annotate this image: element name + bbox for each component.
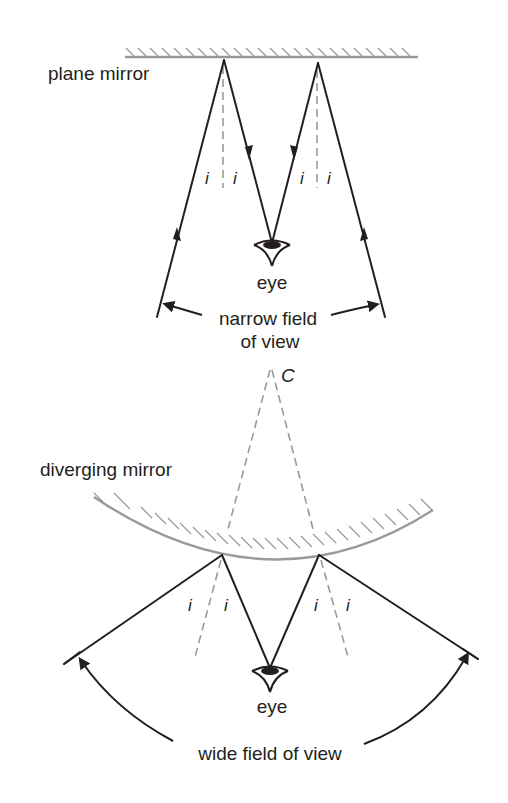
plane-mirror-label: plane mirror xyxy=(48,63,150,84)
angle-label-i: i xyxy=(205,169,210,188)
angle-label-i: i xyxy=(346,596,351,615)
angle-label-i: i xyxy=(300,169,305,188)
wide-field-label: wide field of view xyxy=(197,743,342,764)
field-edge-tick-left xyxy=(64,652,80,664)
mirror-field-of-view-diagram: plane mirror i i i i eye narrow field of… xyxy=(0,0,508,803)
reflected-ray-right-outer xyxy=(318,63,385,317)
narrow-field-label-line2: of view xyxy=(240,331,299,352)
diverging-mirror-label: diverging mirror xyxy=(40,459,173,480)
eye-label: eye xyxy=(257,272,288,293)
radius-line-right xyxy=(272,370,314,533)
plane-mirror-diagram: plane mirror i i i i eye narrow field of… xyxy=(48,48,418,352)
incident-ray-right-inner xyxy=(270,555,319,668)
wide-field-arrow-left xyxy=(82,662,173,741)
diverging-mirror-hatching xyxy=(94,493,432,549)
angle-label-i: i xyxy=(314,596,319,615)
angle-label-i: i xyxy=(327,169,332,188)
angle-label-i: i xyxy=(233,169,238,188)
narrow-field-arrow-left xyxy=(168,305,202,315)
center-of-curvature-label: C xyxy=(281,365,295,386)
normal-line-right xyxy=(321,560,348,657)
ray-arrow-down-right xyxy=(290,145,298,160)
incident-ray-left-outer xyxy=(64,555,222,664)
narrow-field-label: narrow field xyxy=(219,308,317,329)
normal-line-left xyxy=(195,560,221,657)
incident-ray-left-outer xyxy=(157,60,224,317)
angle-label-i: i xyxy=(188,596,193,615)
eye-label: eye xyxy=(257,696,288,717)
eye-icon xyxy=(254,241,290,267)
wide-field-arrow-right xyxy=(364,657,466,744)
plane-mirror-hatching xyxy=(126,48,410,56)
ray-arrow-down-left xyxy=(245,145,253,160)
radius-line-left xyxy=(227,370,270,533)
diverging-mirror-diagram: C diverging mirror xyxy=(40,365,478,764)
angle-label-i: i xyxy=(224,596,229,615)
diverging-mirror-surface xyxy=(94,497,433,559)
reflected-ray-left-inner xyxy=(222,555,270,668)
eye-icon xyxy=(252,667,288,693)
reflected-ray-right-outer xyxy=(319,555,478,659)
narrow-field-arrow-right xyxy=(331,305,374,315)
